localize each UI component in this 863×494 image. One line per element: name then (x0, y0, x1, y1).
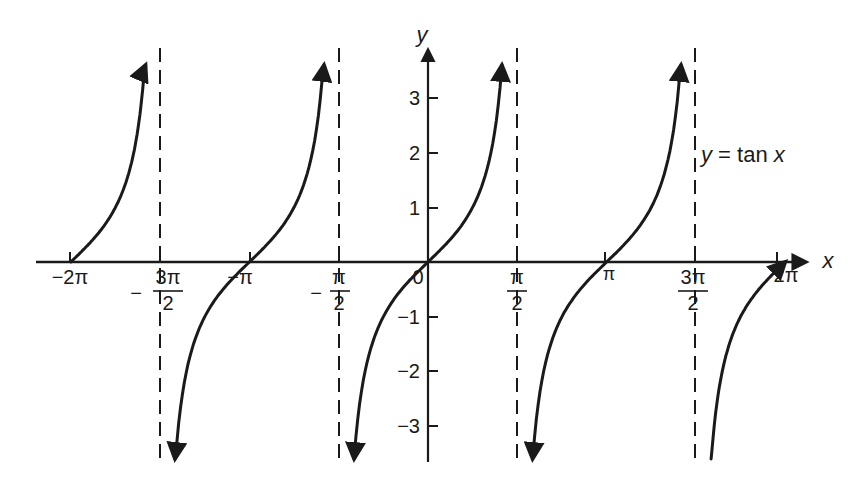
x-tick-neg-pi: −π (227, 266, 252, 288)
origin-label: 0 (412, 266, 423, 288)
x-ticks (70, 252, 777, 262)
svg-text:π: π (510, 266, 524, 288)
function-label: y = tan x (699, 142, 786, 167)
svg-text:2: 2 (333, 292, 344, 314)
tan-branch-1 (71, 65, 146, 262)
y-tick-3: 3 (409, 87, 420, 109)
x-axis-label: x (822, 248, 835, 273)
x-tick-2pi: 2π (774, 264, 799, 286)
x-tick-neg-3pi-2: − 3π 2 (130, 266, 183, 314)
x-tick-3pi-2: 3π 2 (678, 266, 708, 314)
x-tick-pi: π (603, 264, 615, 284)
tan-graph: y x y = tan x 3 2 1 −1 −2 −3 0 −2π − 3π … (0, 0, 863, 494)
y-tick-1: 1 (409, 197, 420, 219)
x-tick-neg-2pi: −2π (52, 266, 89, 288)
svg-text:2: 2 (687, 292, 698, 314)
svg-text:2: 2 (511, 292, 522, 314)
tan-branch-5 (711, 262, 785, 459)
svg-text:π: π (332, 266, 346, 288)
y-tick-neg1: −1 (397, 306, 420, 328)
svg-text:−: − (130, 282, 142, 304)
y-tick-2: 2 (409, 142, 420, 164)
y-tick-neg3: −3 (397, 415, 420, 437)
svg-text:3π: 3π (681, 266, 706, 288)
x-tick-neg-pi-2: − π 2 (310, 266, 350, 314)
x-tick-labels: −2π − 3π 2 −π − π 2 π 2 π 3π 2 2π (52, 264, 799, 314)
svg-text:−: − (310, 282, 322, 304)
svg-text:2: 2 (162, 292, 173, 314)
y-tick-neg2: −2 (397, 360, 420, 382)
svg-text:3π: 3π (156, 266, 181, 288)
y-axis-label: y (415, 22, 430, 47)
